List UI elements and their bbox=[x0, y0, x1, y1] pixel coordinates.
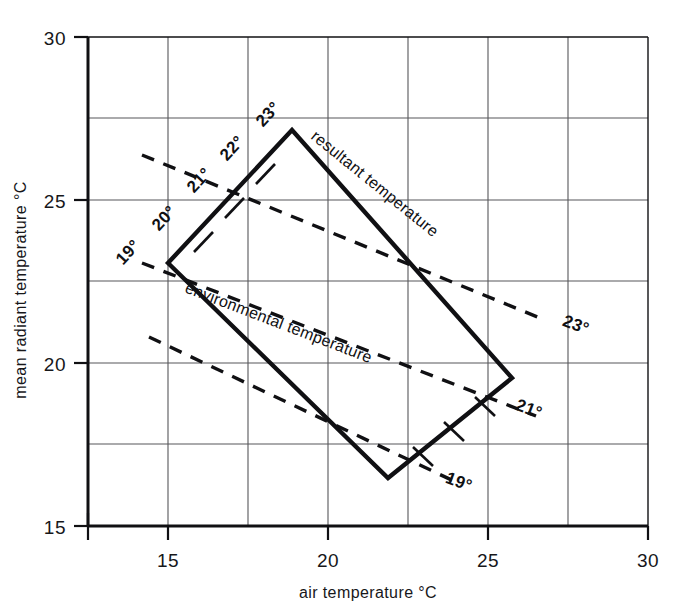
iso-labels-lower-right: 23° 21° 19° bbox=[443, 311, 592, 495]
x-axis-title: air temperature °C bbox=[299, 584, 437, 601]
iso-label-23-right: 23° bbox=[560, 311, 592, 338]
iso-label-20-left: 20° bbox=[148, 202, 180, 234]
series-labels: resultant temperature environmental temp… bbox=[183, 127, 442, 366]
environmental-temperature-label: environmental temperature bbox=[183, 279, 375, 366]
y-axis-title: mean radiant temperature °C bbox=[12, 181, 29, 398]
iso-label-21-left: 21° bbox=[183, 164, 215, 196]
y-tick-label-20: 20 bbox=[44, 354, 66, 375]
y-tick-label-30: 30 bbox=[44, 28, 66, 49]
axis-ticks bbox=[74, 37, 648, 540]
grid-lines bbox=[88, 37, 648, 526]
iso-label-22-left: 22° bbox=[216, 132, 248, 164]
x-tick-label-30: 30 bbox=[637, 550, 659, 571]
iso-label-19-left: 19° bbox=[112, 236, 144, 268]
x-tick-label-15: 15 bbox=[157, 550, 179, 571]
y-tick-label-25: 25 bbox=[44, 191, 66, 212]
y-axis-tick-labels: 30 25 20 15 bbox=[44, 28, 66, 538]
x-tick-label-20: 20 bbox=[317, 550, 339, 571]
chart-figure: 30 25 20 15 15 20 25 30 air temperature … bbox=[0, 0, 673, 613]
iso-label-23-left: 23° bbox=[252, 98, 284, 130]
env-line-19 bbox=[149, 337, 460, 484]
x-axis-tick-labels: 15 20 25 30 bbox=[157, 550, 659, 571]
iso-label-19-right: 19° bbox=[443, 468, 475, 495]
x-tick-label-25: 25 bbox=[477, 550, 499, 571]
iso-label-21-right: 21° bbox=[513, 395, 545, 422]
chart-canvas: 30 25 20 15 15 20 25 30 air temperature … bbox=[0, 0, 673, 613]
y-tick-label-15: 15 bbox=[44, 517, 66, 538]
